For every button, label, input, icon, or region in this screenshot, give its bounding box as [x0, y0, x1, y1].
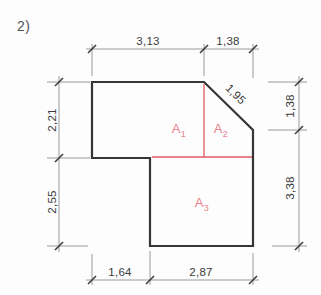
area-subscript: 2	[223, 129, 228, 139]
figure-outline	[92, 82, 253, 246]
area-symbol: A	[172, 121, 181, 136]
dim-label-top-right: 1,38	[216, 35, 240, 47]
area-symbol: A	[195, 195, 204, 210]
area-label-a3: A3	[195, 195, 209, 213]
dim-label-right-upper: 1,38	[284, 94, 296, 118]
geometry-figure: 2)	[0, 0, 321, 295]
tick-marks	[55, 45, 303, 284]
dim-label-bottom-left: 1,64	[108, 266, 132, 278]
extension-lines	[47, 44, 307, 285]
area-label-a1: A1	[172, 121, 186, 139]
area-subscript: 3	[204, 203, 209, 213]
dim-label-left-lower: 2,55	[46, 190, 58, 214]
area-subscript: 1	[181, 129, 186, 139]
dim-label-left-upper: 2,21	[46, 108, 58, 132]
dim-label-right-lower: 3,38	[284, 176, 296, 200]
exercise-number: 2)	[17, 18, 30, 34]
dim-label-top-left: 3,13	[136, 35, 160, 47]
dim-label-bottom-right: 2,87	[189, 266, 213, 278]
area-label-a2: A2	[214, 121, 228, 139]
area-symbol: A	[214, 121, 223, 136]
dim-label-diagonal: 1,95	[223, 82, 248, 107]
